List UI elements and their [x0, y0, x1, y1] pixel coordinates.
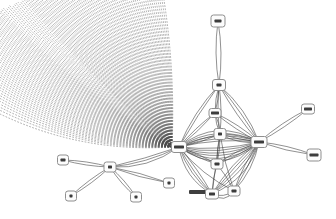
- network-graph-figure: [0, 0, 336, 219]
- node-label-blob-e: [209, 193, 215, 196]
- fan-edge: [35, 0, 172, 147]
- graph-canvas: [0, 0, 336, 219]
- graph-node-r2[interactable]: [307, 149, 321, 161]
- graph-edge-s-s1: [63, 160, 110, 167]
- fan-edge: [0, 38, 172, 147]
- graph-node-d[interactable]: [211, 159, 223, 169]
- fan-edge: [0, 85, 172, 147]
- fan-edge: [0, 67, 172, 147]
- graph-edge-a-e: [179, 147, 212, 194]
- graph-node-c[interactable]: [251, 137, 267, 148]
- node-label-blob-x: [211, 112, 219, 115]
- graph-edge-t1-t2: [218, 21, 221, 85]
- node-label-blob-s: [108, 166, 112, 169]
- graph-edge-t1-t2: [216, 21, 219, 85]
- dotted-edge-bundle-fan: [0, 0, 173, 148]
- graph-node-s1[interactable]: [58, 155, 69, 165]
- node-label-blob-s3: [135, 196, 138, 199]
- graph-node-f[interactable]: [228, 186, 240, 196]
- graph-edge-a-e: [179, 147, 212, 194]
- node-label-blob-r1: [304, 108, 312, 111]
- node-label-blob-c: [254, 141, 264, 144]
- fan-edge: [0, 27, 172, 147]
- graph-node-x[interactable]: [209, 109, 221, 118]
- fan-edge: [0, 34, 172, 148]
- node-label-blob-a: [174, 146, 184, 149]
- graph-node-b[interactable]: [214, 129, 226, 140]
- node-label-blob-b: [218, 133, 222, 136]
- node-label-blob-f: [232, 190, 237, 193]
- graph-node-s[interactable]: [104, 162, 116, 172]
- node-label-blob-t2: [217, 84, 222, 87]
- graph-node-t2[interactable]: [213, 80, 226, 91]
- node-label-blob-r2: [310, 154, 319, 157]
- fan-edge: [98, 0, 172, 147]
- graph-node-r1[interactable]: [302, 104, 315, 114]
- node-label-blob-s2: [70, 195, 73, 198]
- node-label-blob-s4: [168, 182, 171, 185]
- fan-edge: [20, 2, 172, 147]
- node-label-blob-t1: [215, 20, 222, 23]
- graph-node-s4[interactable]: [164, 178, 175, 188]
- fan-edge: [62, 0, 173, 147]
- graph-node-s3[interactable]: [131, 192, 142, 202]
- graph-node-t1[interactable]: [211, 15, 225, 27]
- graph-edge-a-e: [179, 147, 212, 194]
- fan-edge: [33, 0, 172, 147]
- graph-node-e[interactable]: [206, 189, 219, 199]
- node-label-blob-s1: [61, 159, 66, 162]
- graph-edge-a-e: [179, 147, 212, 194]
- graph-node-a[interactable]: [172, 142, 187, 153]
- node-label-blob-d: [215, 163, 220, 166]
- graph-node-s2[interactable]: [66, 191, 77, 201]
- graph-edge-s-s1: [63, 160, 110, 167]
- fan-edge: [22, 1, 172, 147]
